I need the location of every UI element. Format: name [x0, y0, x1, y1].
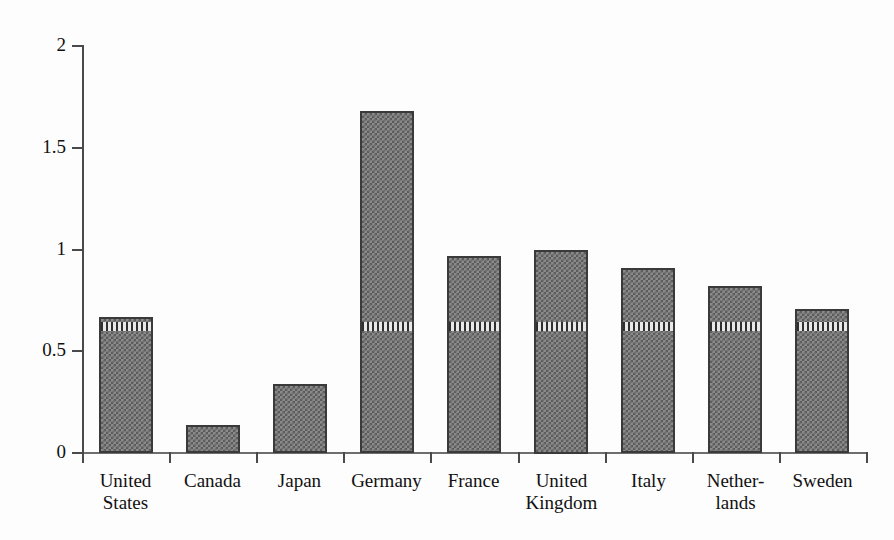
y-axis-tick [72, 147, 84, 149]
y-axis-tick [72, 249, 84, 251]
x-axis-label: United States [82, 470, 169, 514]
x-axis-tick [866, 452, 868, 463]
bar [186, 425, 240, 453]
y-axis-tick-label: 2 [22, 35, 66, 54]
y-axis-tick-label-wrap: 1 [0, 239, 66, 258]
x-axis-tick [256, 452, 258, 463]
bar [360, 111, 414, 453]
bar [447, 256, 501, 453]
x-axis-tick [82, 452, 84, 463]
bar [534, 250, 588, 454]
x-axis-tick [430, 452, 432, 463]
bar [621, 268, 675, 453]
x-axis-label: United Kingdom [518, 470, 605, 514]
y-axis-tick [72, 45, 84, 47]
y-axis-tick-label: 0.5 [22, 340, 66, 359]
y-axis-tick-label-wrap: 0.5 [0, 340, 66, 359]
y-axis-tick-label-wrap: 1.5 [0, 137, 66, 156]
bar-hatch-band [623, 322, 673, 331]
bar [708, 286, 762, 453]
bar [99, 317, 153, 453]
x-axis-label: France [430, 470, 517, 492]
x-axis-label: Sweden [779, 470, 866, 492]
x-axis-tick [692, 452, 694, 463]
y-axis-tick-label: 1.5 [22, 137, 66, 156]
y-axis-tick-label-wrap: 2 [0, 35, 66, 54]
x-axis-tick [343, 452, 345, 463]
bar-hatch-band [101, 322, 151, 331]
x-axis-label: Germany [343, 470, 430, 492]
x-axis-tick [605, 452, 607, 463]
bar [273, 384, 327, 453]
bar-chart: 00.511.52 United StatesCanadaJapanGerman… [0, 0, 894, 540]
y-axis-tick [72, 350, 84, 352]
y-axis-tick-label: 1 [22, 239, 66, 258]
y-axis-line [82, 46, 84, 455]
bar-hatch-band [362, 322, 412, 331]
x-axis-label: Japan [256, 470, 343, 492]
bar-hatch-band [710, 322, 760, 331]
x-axis-tick [518, 452, 520, 463]
y-axis-tick-label: 0 [22, 442, 66, 461]
bar [795, 309, 849, 453]
bar-hatch-band [449, 322, 499, 331]
bar-hatch-band [797, 322, 847, 331]
x-axis-label: Canada [169, 470, 256, 492]
x-axis-tick [779, 452, 781, 463]
x-axis-label: Nether- lands [692, 470, 779, 514]
x-axis-label: Italy [605, 470, 692, 492]
bar-hatch-band [536, 322, 586, 331]
y-axis-tick-label-wrap: 0 [0, 442, 66, 461]
x-axis-tick [169, 452, 171, 463]
